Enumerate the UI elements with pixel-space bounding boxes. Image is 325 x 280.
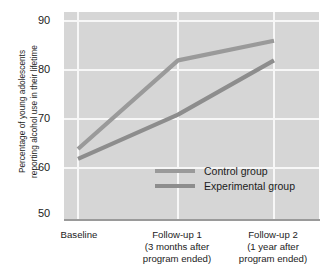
- x-tick-label-followup-1-line-3: program ended): [132, 253, 222, 265]
- legend-label-experimental-group: Experimental group: [204, 180, 295, 192]
- experimental-group-line: [78, 60, 274, 158]
- x-tick-label-baseline: Baseline: [38, 229, 120, 241]
- x-tick-label-followup-1-line-1: Follow-up 1: [132, 229, 222, 241]
- legend-swatch-control-group: [155, 169, 195, 173]
- x-tick-label-baseline-line-1: Baseline: [38, 229, 120, 241]
- y-tick-label-50: 50: [38, 208, 64, 219]
- x-tick-label-followup-2-line-2: (1 year after: [228, 241, 318, 253]
- chart-figure: Percentage of young adolescents reportin…: [0, 0, 325, 280]
- y-tick-label-70: 70: [38, 113, 64, 124]
- legend-item-control-group: Control group: [155, 163, 315, 178]
- x-tick-label-followup-1: Follow-up 1 (3 months after program ende…: [132, 229, 222, 266]
- x-tick-label-followup-2-line-1: Follow-up 2: [228, 229, 318, 241]
- x-tick-label-followup-1-line-2: (3 months after: [132, 241, 222, 253]
- legend-swatch-experimental-group: [155, 184, 195, 188]
- y-axis-title: Percentage of young adolescents reportin…: [0, 0, 56, 222]
- legend-item-experimental-group: Experimental group: [155, 178, 315, 193]
- y-axis-title-line-1: Percentage of young adolescents: [17, 45, 29, 178]
- y-tick-label-80: 80: [38, 64, 64, 75]
- control-group-line: [78, 41, 274, 149]
- chart-legend: Control group Experimental group: [155, 163, 315, 193]
- y-tick-label-90: 90: [38, 15, 64, 26]
- x-tick-label-followup-2: Follow-up 2 (1 year after program ended): [228, 229, 318, 266]
- legend-label-control-group: Control group: [204, 165, 268, 177]
- x-axis-line: [64, 219, 320, 221]
- x-tick-label-followup-2-line-3: program ended): [228, 253, 318, 265]
- y-tick-label-60: 60: [38, 162, 64, 173]
